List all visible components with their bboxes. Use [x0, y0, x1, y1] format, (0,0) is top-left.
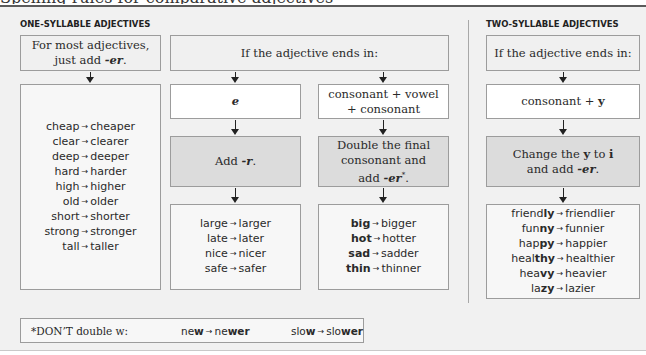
comparative-ending: wer — [228, 325, 250, 337]
arrow-right-icon: → — [228, 219, 239, 228]
arrow-right-icon: → — [80, 197, 91, 206]
suffix-er: -er — [105, 53, 123, 67]
base-ending: py — [539, 237, 554, 250]
arrow-right-icon: → — [80, 122, 91, 131]
base-ending: thy — [535, 252, 555, 265]
arrow-right-icon: → — [371, 264, 382, 273]
arrow-right-icon: → — [370, 219, 381, 228]
comparative-ending: wer — [341, 325, 363, 337]
base-form: short — [51, 210, 79, 223]
example-row: hot→hotter — [351, 232, 416, 247]
comparative-form: cheaper — [90, 120, 135, 133]
one-syllable-title: ONE-SYLLABLE ADJECTIVES — [20, 19, 150, 29]
footnote-example: new→newer — [181, 325, 291, 337]
comparative-form: larger — [239, 217, 271, 230]
comparative-stem: slo — [326, 325, 341, 337]
comparative-form: slower — [326, 325, 363, 337]
base-stem: friend — [511, 207, 543, 220]
base-ending: vy — [540, 267, 554, 280]
comparative-form: nicer — [239, 247, 266, 260]
comparative-form: deeper — [90, 150, 129, 163]
two-syllable-title: TWO-SYLLABLE ADJECTIVES — [486, 19, 619, 29]
clipped-heading: Spelling rules for comparative adjective… — [0, 0, 646, 4]
comparative-form: taller — [90, 240, 118, 253]
cvc-ending-box: consonant + vowel + consonant — [318, 84, 449, 119]
arrow-right-icon: → — [80, 137, 91, 146]
example-row: big→bigger — [351, 217, 417, 232]
base-form: clear — [52, 135, 79, 148]
footnote-example: slow→slower — [291, 325, 363, 337]
comparative-form: lazier — [565, 282, 595, 295]
example-row: cheap→cheaper — [46, 120, 135, 135]
base-form: tall — [62, 240, 79, 253]
comparative-form: older — [90, 195, 118, 208]
comparative-form: thinner — [381, 262, 421, 275]
comparative-form: shorter — [90, 210, 130, 223]
comparative-form: higher — [90, 180, 125, 193]
arrow-right-icon: → — [80, 182, 91, 191]
base-ending: w — [194, 325, 204, 337]
example-row: nice→nicer — [205, 247, 266, 262]
arrow-right-icon: → — [228, 249, 239, 258]
base-form: slow — [291, 325, 316, 337]
ends-in-label: If the adjective ends in: — [241, 46, 378, 61]
ending-e-examples: large→largerlate→laternice→nicersafe→saf… — [170, 204, 301, 290]
base-stem: slo — [291, 325, 306, 337]
base-form: lazy — [531, 282, 554, 295]
rule-line-2: just add -er. — [54, 53, 126, 68]
arrow-right-icon: → — [370, 249, 381, 258]
suffix-er: -er — [383, 170, 401, 184]
base-stem: la — [531, 282, 541, 295]
suffix-r: -r — [242, 154, 253, 168]
comparative-form: heavier — [565, 267, 606, 280]
example-row: deep→deeper — [52, 150, 129, 165]
arrow-right-icon: → — [372, 234, 383, 243]
base-form: deep — [52, 150, 80, 163]
arrow-right-icon: → — [228, 264, 239, 273]
example-row: thin→thinner — [346, 262, 421, 277]
base-ending: ny — [539, 222, 554, 235]
arrow-right-icon: → — [80, 212, 91, 221]
base-form: big — [351, 217, 371, 230]
arrow-right-icon: → — [80, 152, 91, 161]
comparative-form: friendlier — [565, 207, 615, 220]
double-consonant-rule-box: Double the final consonant and add -er*. — [318, 136, 449, 187]
example-row: lazy→lazier — [531, 282, 595, 297]
comparative-form: hotter — [382, 232, 416, 245]
most-adjectives-rule-box: For most adjectives, just add -er. — [20, 35, 161, 71]
example-row: late→later — [207, 232, 264, 247]
example-row: safe→safer — [205, 262, 266, 277]
arrow-right-icon: → — [555, 239, 566, 248]
example-row: strong→stronger — [44, 225, 136, 240]
example-row: funny→funnier — [522, 222, 605, 237]
base-form: sad — [348, 247, 370, 260]
example-row: high→higher — [56, 180, 126, 195]
base-form: cheap — [46, 120, 80, 133]
base-form: large — [200, 217, 228, 230]
base-stem: fun — [522, 222, 540, 235]
comparative-form: bigger — [381, 217, 416, 230]
change-y-to-i-rule-box: Change the y to i and add -er. — [486, 136, 640, 187]
arrow-right-icon: → — [554, 209, 565, 218]
base-form: happy — [519, 237, 555, 250]
base-stem: ne — [181, 325, 194, 337]
arrow-right-icon: → — [554, 269, 565, 278]
comparative-form: stronger — [90, 225, 136, 238]
example-row: healthy→healthier — [511, 252, 615, 267]
example-row: hard→harder — [54, 165, 126, 180]
arrow-right-icon: → — [204, 327, 215, 336]
base-form: healthy — [511, 252, 555, 265]
arrow-right-icon: → — [555, 254, 566, 263]
two-syllable-examples: friendly→friendlierfunny→funnierhappy→ha… — [486, 204, 640, 299]
comparative-form: harder — [90, 165, 126, 178]
comparative-form: newer — [215, 325, 250, 337]
example-row: short→shorter — [51, 210, 130, 225]
arrow-right-icon: → — [555, 224, 566, 233]
base-form: hard — [54, 165, 79, 178]
comparative-form: safer — [239, 262, 267, 275]
example-row: old→older — [63, 195, 119, 210]
arrow-right-icon: → — [554, 284, 565, 293]
base-stem: hea — [520, 267, 540, 280]
arrow-right-icon: → — [228, 234, 239, 243]
base-form: high — [56, 180, 80, 193]
